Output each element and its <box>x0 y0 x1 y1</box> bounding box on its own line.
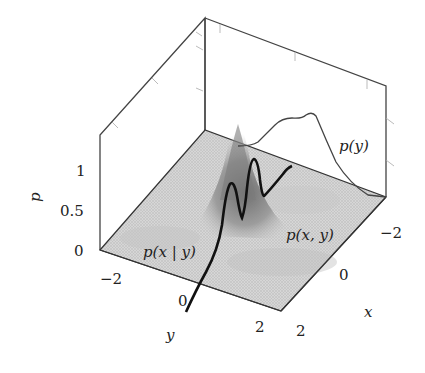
z-axis-ticks: 1 0.5 0 <box>60 162 86 260</box>
svg-text:2: 2 <box>296 322 306 340</box>
joint-annotation: p(x, y) <box>286 226 334 244</box>
svg-text:0: 0 <box>339 266 349 284</box>
z-axis-label: p <box>26 192 44 202</box>
svg-text:0: 0 <box>74 242 84 260</box>
conditional-annotation: p(x | y) <box>143 243 196 261</box>
svg-text:1: 1 <box>76 162 86 180</box>
marginal-annotation: p(y) <box>339 137 369 155</box>
svg-text:−2: −2 <box>380 224 402 242</box>
y-axis-label: y <box>165 326 175 344</box>
surface-plot: 1 0.5 0 p −2 0 2 y −2 0 2 x p(x | y) p(x… <box>0 0 425 373</box>
svg-text:2: 2 <box>255 318 265 336</box>
svg-text:−2: −2 <box>100 270 122 288</box>
svg-text:0: 0 <box>178 292 188 310</box>
x-axis-label: x <box>364 303 373 321</box>
svg-text:0.5: 0.5 <box>60 202 84 220</box>
